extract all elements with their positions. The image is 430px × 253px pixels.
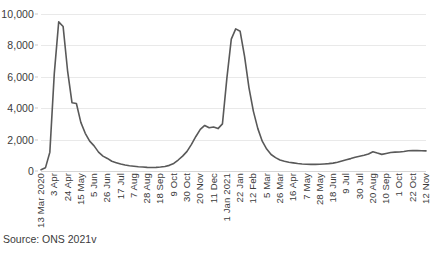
x-axis-tick-label: 22 Jan: [235, 173, 245, 202]
x-axis-tick-label: 1 Jan 2021: [222, 173, 232, 221]
x-axis-tick-label: 18 Sep: [155, 173, 165, 204]
data-series-line: [41, 14, 426, 171]
y-axis-tick-mark: [35, 171, 38, 172]
y-axis-tick-mark: [35, 45, 38, 46]
x-axis-tick-label: 18 Jun: [328, 173, 338, 202]
x-axis-tick-label: 3 Apr: [49, 173, 59, 196]
x-axis-tick-label: 17 Jul: [116, 173, 126, 199]
x-axis-tick-label: 30 Oct: [182, 173, 192, 202]
x-axis-tick-label: 9 Jul: [341, 173, 351, 194]
x-axis-tick-label: 16 Apr: [288, 173, 298, 201]
y-axis-tick-mark: [35, 14, 38, 15]
x-axis-tick-label: 24 Apr: [63, 173, 73, 201]
x-axis-tick-label: 28 May: [315, 173, 325, 205]
x-axis-tick-label: 7 Aug: [129, 173, 139, 198]
x-axis-tick-label: 12 Feb: [248, 173, 258, 203]
x-axis-tick-label: 1 Oct: [394, 173, 404, 196]
y-axis-tick-label: 10,000: [1, 9, 34, 20]
x-axis-tick-label: 5 Jun: [89, 173, 99, 197]
chart-figure: 02,0004,0006,0008,00010,000 13 Mar 20203…: [0, 0, 430, 253]
y-axis-tick-label: 8,000: [7, 40, 34, 51]
x-axis-tick-label: 9 Oct: [169, 173, 179, 196]
x-axis-tick-label: 5 Mar: [262, 173, 272, 198]
x-axis-tick-label: 13 Mar 2020: [36, 173, 46, 228]
y-axis-tick-label: 6,000: [7, 72, 34, 83]
y-axis-tick-label: 0: [28, 166, 34, 177]
x-axis-tick-label: 7 May: [302, 173, 312, 200]
y-axis-tick-mark: [35, 76, 38, 77]
y-axis-tick-mark: [35, 108, 38, 109]
x-axis-tick-label: 26 Jun: [102, 173, 112, 202]
y-axis: 02,0004,0006,0008,00010,000: [0, 0, 38, 186]
axis-baseline: [41, 171, 426, 172]
x-axis-tick-label: 22 Oct: [408, 173, 418, 202]
x-axis-tick-label: 20 Nov: [195, 173, 205, 204]
x-axis-tick-label: 26 Mar: [275, 173, 285, 203]
plot-area: 02,0004,0006,0008,00010,000 13 Mar 20203…: [0, 0, 430, 186]
source-note: Source: ONS 2021v: [3, 233, 96, 246]
y-axis-tick-label: 4,000: [7, 103, 34, 114]
x-axis-tick-label: 20 Aug: [368, 173, 378, 203]
y-axis-tick-label: 2,000: [7, 134, 34, 145]
x-axis-tick-label: 11 Dec: [209, 173, 219, 203]
x-axis-tick-label: 10 Sep: [381, 173, 391, 204]
x-axis: 13 Mar 20203 Apr24 Apr15 May5 Jun26 Jun1…: [41, 173, 426, 231]
x-axis-tick-label: 28 Aug: [142, 173, 152, 203]
x-axis-tick-label: 12 Nov: [421, 173, 430, 204]
y-axis-tick-mark: [35, 139, 38, 140]
x-axis-tick-label: 15 May: [76, 173, 86, 205]
gridlines-and-series: [41, 14, 426, 171]
x-axis-tick-label: 30 Jul: [355, 173, 365, 199]
